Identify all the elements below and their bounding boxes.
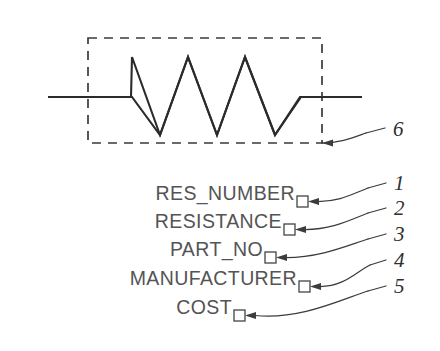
callout-4-arrowhead	[310, 283, 321, 290]
callout-5-arrowhead	[245, 312, 256, 319]
callout-3-leader-line	[286, 239, 368, 258]
callout-number-1: 1	[394, 171, 405, 195]
resistor-attribute-figure: 6 RES_NUMBER 1 RESISTANCE 2 PART_NO 3 MA…	[0, 0, 440, 351]
attribute-handle-manufacturer[interactable]	[299, 281, 310, 292]
callout-number-4: 4	[394, 248, 405, 272]
callout-4-leader-line	[320, 265, 370, 287]
callout-2-leader-tail	[368, 208, 386, 213]
attribute-label-res-number: RES_NUMBER	[156, 182, 295, 205]
callout-5-leader-line	[255, 291, 368, 316]
callout-number-6: 6	[393, 117, 404, 141]
resistor-body-polyline	[48, 57, 362, 135]
attribute-label-resistance: RESISTANCE	[155, 210, 282, 232]
attribute-handle-res-number[interactable]	[297, 196, 308, 207]
callout-2-leader-line	[305, 213, 368, 230]
attribute-handle-resistance[interactable]	[284, 224, 295, 235]
attribute-handle-part-no[interactable]	[265, 252, 276, 263]
callout-1-leader-tail	[368, 183, 386, 188]
attribute-handle-cost[interactable]	[234, 310, 245, 321]
attribute-label-part-no: PART_NO	[170, 238, 263, 261]
callout-3-leader-tail	[368, 234, 386, 239]
callout-2-arrowhead	[295, 226, 306, 233]
callout-6-leader-tail	[366, 128, 385, 133]
callout-number-3: 3	[393, 222, 405, 246]
callout-6-arrowhead	[322, 140, 333, 147]
callout-3-arrowhead	[276, 254, 287, 261]
callout-5-leader-tail	[368, 286, 386, 291]
attribute-label-manufacturer: MANUFACTURER	[130, 267, 297, 289]
attribute-label-cost: COST	[176, 296, 232, 318]
callout-4-leader-tail	[370, 260, 386, 265]
callout-number-2: 2	[394, 196, 405, 220]
callout-1-arrowhead	[308, 198, 319, 205]
symbol-boundary-dashed-box	[88, 38, 322, 143]
callout-1-leader-line	[318, 188, 368, 202]
callout-number-5: 5	[394, 274, 405, 298]
